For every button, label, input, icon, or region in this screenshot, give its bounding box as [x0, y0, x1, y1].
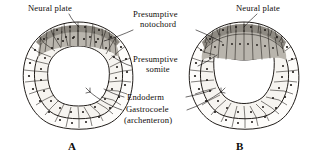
- label-presumptive-notochord-line1: Presumptive: [133, 9, 178, 19]
- gastrocoele-cavity-a: [48, 46, 110, 106]
- embryo-cross-section-figure: Neural plate Neural plate Presumptive no…: [0, 0, 309, 159]
- label-presumptive-somite-line1: Presumptive: [133, 54, 178, 64]
- label-endoderm: Endoderm: [127, 92, 164, 102]
- panel-b-embryo: [189, 22, 299, 129]
- panel-caption-a: A: [68, 140, 76, 152]
- panel-a-embryo: [23, 22, 133, 129]
- panel-caption-b: B: [236, 140, 244, 152]
- label-neural-plate-left: Neural plate: [28, 3, 72, 13]
- figure-canvas: Neural plate Neural plate Presumptive no…: [0, 0, 309, 159]
- label-archenteron: (archenteron): [124, 115, 172, 125]
- label-presumptive-somite-line2: somite: [146, 64, 170, 74]
- label-gastrocoele: Gastrocoele: [126, 104, 169, 114]
- label-presumptive-notochord-line2: notochord: [140, 19, 177, 29]
- label-neural-plate-right: Neural plate: [236, 3, 280, 13]
